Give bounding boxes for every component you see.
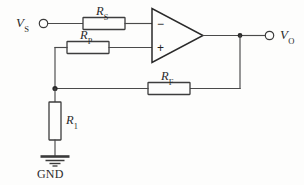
schematic-svg [0,0,304,185]
resistor-rp-label: RP [80,29,92,45]
resistor-rs-symbol: R [96,4,104,18]
resistor-rs-label: RS [96,5,108,21]
resistor-r1-label: R1 [66,114,78,130]
input-terminal-subscript: S [24,24,29,34]
resistor-r1-subscript: 1 [74,122,78,131]
input-terminal-circle [39,19,47,27]
resistor-rf-subscript: F [169,78,174,87]
opamp-inverting-pin-label: − [157,18,164,30]
ground-label: GND [37,168,64,180]
resistor-rp-symbol: R [80,28,88,42]
resistor-r1-body [49,102,61,140]
output-terminal-circle [265,31,273,39]
circuit-diagram-canvas: VS VO RS RP RF R1 − + GND [0,0,304,185]
output-terminal-label: VO [280,28,294,44]
resistor-r1-symbol: R [66,113,74,127]
input-terminal-label: VS [16,16,29,32]
output-terminal-symbol: V [280,27,288,42]
resistor-rs-subscript: S [104,13,109,22]
resistor-rf-symbol: R [161,69,169,83]
input-terminal-symbol: V [16,15,24,30]
resistor-rp-subscript: P [88,37,93,46]
opamp-noninverting-pin-label: + [157,42,164,54]
resistor-rf-label: RF [161,70,173,86]
output-terminal-subscript: O [288,36,294,46]
